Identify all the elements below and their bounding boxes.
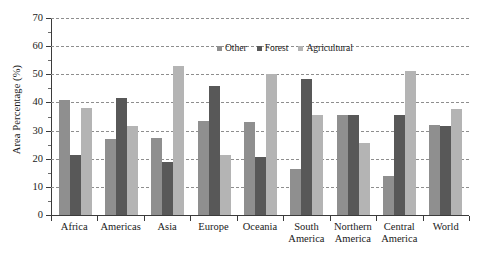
bar-americas-forest [116, 98, 127, 215]
y-axis-tick [46, 102, 51, 103]
bar-africa-forest [70, 155, 81, 216]
y-axis-tick-label: 10 [33, 182, 44, 193]
y-axis-tick-label: 30 [33, 125, 44, 136]
y-axis-tick [46, 187, 51, 188]
y-axis-minor-tick [48, 145, 51, 146]
x-axis-label-world: World [423, 221, 469, 244]
y-axis-tick-label: 0 [38, 210, 43, 221]
y-axis-tick [46, 74, 51, 75]
bar-northern-america-agricultural [359, 143, 370, 215]
bar-oceania-forest [255, 157, 266, 215]
bar-world-forest [440, 126, 451, 215]
bar-asia-agricultural [173, 66, 184, 215]
x-axis-label-line: Asia [144, 221, 190, 233]
x-axis-label-line: America [330, 233, 376, 245]
x-axis-labels: AfricaAmericasAsiaEuropeOceaniaSouthAmer… [51, 221, 469, 244]
bar-south-america-agricultural [312, 115, 323, 215]
y-axis-tick [46, 46, 51, 47]
bar-oceania-agricultural [266, 74, 277, 215]
x-axis-label-line: Northern [330, 221, 376, 233]
bar-americas-other [105, 139, 116, 215]
x-axis-label-northern-america: NorthernAmerica [330, 221, 376, 244]
bar-northern-america-other [337, 115, 348, 215]
y-axis-tick-label: 60 [33, 41, 44, 52]
x-axis-label-line: South [283, 221, 329, 233]
bar-south-america-forest [301, 79, 312, 215]
bar-world-other [429, 125, 440, 215]
y-axis-minor-tick [48, 201, 51, 202]
y-axis-minor-tick [48, 173, 51, 174]
x-axis-label-oceania: Oceania [237, 221, 283, 244]
y-axis-tick [46, 159, 51, 160]
bar-group-asia [145, 18, 191, 215]
x-axis-label-line: World [423, 221, 469, 233]
x-axis-label-europe: Europe [190, 221, 236, 244]
y-axis-tick [46, 18, 51, 19]
legend-swatch-icon [298, 46, 303, 51]
y-axis-minor-tick [48, 88, 51, 89]
bar-asia-other [151, 138, 162, 215]
x-axis-label-line: Central [376, 221, 422, 233]
x-axis-label-line: America [283, 233, 329, 245]
bar-group-central-america [376, 18, 422, 215]
bar-group-africa [52, 18, 98, 215]
legend-label: Other [225, 43, 247, 53]
bar-south-america-other [290, 169, 301, 215]
x-axis-label-asia: Asia [144, 221, 190, 244]
bar-africa-other [59, 100, 70, 215]
bar-world-agricultural [451, 109, 462, 215]
x-axis-tick [469, 216, 470, 221]
legend-item-forest[interactable]: Forest [257, 43, 289, 53]
bar-group-americas [98, 18, 144, 215]
y-axis-title: Area Percentage (%) [11, 30, 22, 190]
bar-oceania-other [244, 122, 255, 215]
x-axis-label-africa: Africa [51, 221, 97, 244]
bar-europe-forest [209, 86, 220, 215]
y-axis-tick-label: 50 [33, 69, 44, 80]
y-axis-tick-label: 40 [33, 97, 44, 108]
bar-europe-agricultural [220, 155, 231, 216]
x-axis-label-americas: Americas [97, 221, 143, 244]
legend-item-other[interactable]: Other [217, 43, 247, 53]
bar-central-america-agricultural [405, 71, 416, 215]
bar-asia-forest [162, 162, 173, 215]
plot-area: 010203040506070 OtherForestAgricultural [51, 18, 469, 216]
bar-africa-agricultural [81, 108, 92, 215]
legend-swatch-icon [257, 46, 262, 51]
x-axis-label-line: Oceania [237, 221, 283, 233]
y-axis-minor-tick [48, 32, 51, 33]
legend-swatch-icon [217, 46, 222, 51]
bar-americas-agricultural [127, 126, 138, 215]
bar-europe-other [198, 121, 209, 215]
legend-label: Forest [265, 43, 289, 53]
bar-chart: Area Percentage (%) 010203040506070 Othe… [0, 0, 481, 263]
x-axis-label-line: America [376, 233, 422, 245]
x-axis-label-line: Americas [97, 221, 143, 233]
y-axis-tick-label: 20 [33, 153, 44, 164]
x-axis-label-line: Africa [51, 221, 97, 233]
y-axis-tick-label: 70 [33, 13, 44, 24]
x-axis-label-line: Europe [190, 221, 236, 233]
bar-central-america-forest [394, 115, 405, 215]
y-axis-tick [46, 131, 51, 132]
bar-group-world [423, 18, 469, 215]
y-axis-minor-tick [48, 117, 51, 118]
x-axis-label-central-america: CentralAmerica [376, 221, 422, 244]
legend-label: Agricultural [306, 43, 352, 53]
legend-item-agricultural[interactable]: Agricultural [298, 43, 352, 53]
y-axis-minor-tick [48, 60, 51, 61]
bar-central-america-other [383, 176, 394, 215]
bar-northern-america-forest [348, 115, 359, 215]
chart-legend: OtherForestAgricultural [217, 43, 353, 53]
x-axis-label-south-america: SouthAmerica [283, 221, 329, 244]
